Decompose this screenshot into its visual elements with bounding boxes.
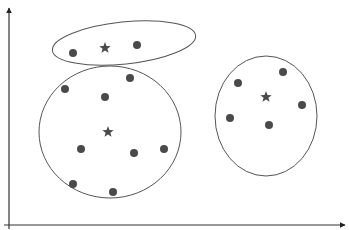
data-point: [226, 114, 234, 122]
data-point: [77, 145, 85, 153]
cluster-top: [50, 15, 198, 72]
centroid-star-icon: [102, 126, 113, 137]
clusters: [39, 15, 317, 198]
data-point: [130, 149, 138, 157]
data-point: [126, 74, 134, 82]
cluster-boundary: [50, 15, 198, 72]
data-point: [160, 145, 168, 153]
data-point: [279, 68, 287, 76]
cluster-diagram: [0, 0, 349, 230]
data-point: [234, 79, 242, 87]
data-point: [133, 41, 141, 49]
cluster-right: [215, 56, 317, 176]
data-point: [61, 85, 69, 93]
diagram-canvas: [0, 0, 349, 230]
data-point: [265, 121, 273, 129]
cluster-left: [39, 66, 181, 198]
centroid-star-icon: [99, 42, 110, 53]
data-point: [101, 93, 109, 101]
data-point: [298, 101, 306, 109]
axes: [4, 8, 345, 229]
centroid-star-icon: [260, 91, 271, 102]
data-point: [109, 188, 117, 196]
data-point: [69, 49, 77, 57]
data-point: [69, 180, 77, 188]
